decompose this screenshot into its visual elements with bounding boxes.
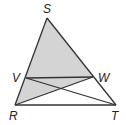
label-T: T (111, 109, 120, 123)
geometry-diagram: S V W R T (0, 0, 126, 125)
label-R: R (9, 109, 18, 123)
label-V: V (12, 71, 21, 85)
label-S: S (43, 2, 51, 16)
label-W: W (98, 71, 111, 85)
